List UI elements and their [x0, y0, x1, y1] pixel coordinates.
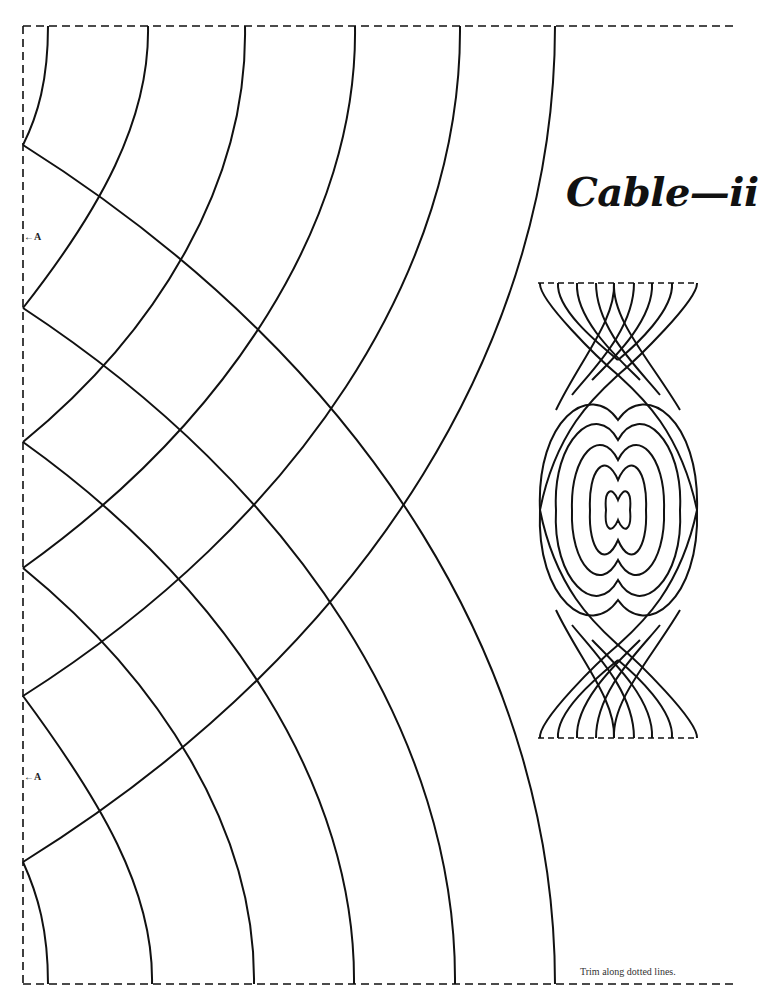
- main-cable-bottom-arcs: [23, 145, 555, 984]
- trim-instruction: Trim along dotted lines.: [580, 966, 676, 977]
- alignment-marker-a-bottom: ←A: [24, 771, 41, 782]
- left-arrow-icon: ←: [24, 771, 34, 782]
- left-arrow-icon: ←: [24, 231, 34, 242]
- alignment-marker-a-top: ←A: [24, 231, 41, 242]
- main-cable-top-arcs: [23, 26, 555, 862]
- pattern-title: Cable—ii: [566, 168, 759, 215]
- cable-preview-diagram: [538, 283, 698, 738]
